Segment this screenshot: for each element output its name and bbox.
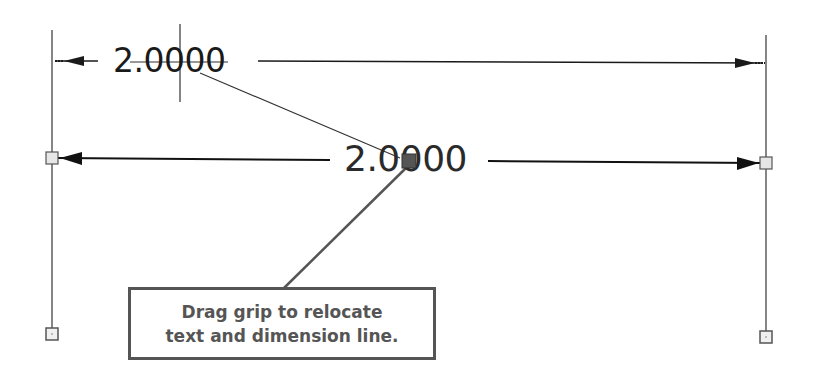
left-extension-origin-grip[interactable] [46, 328, 58, 340]
arrowhead-left-icon [60, 152, 82, 165]
callout-line-1: Drag grip to relocate [182, 300, 383, 324]
callout-line-2: text and dimension line. [165, 324, 398, 348]
arrowhead-right-icon [737, 157, 759, 170]
relocated-dimension-text[interactable]: 2.0000 [344, 141, 467, 177]
callout-box: Drag grip to relocate text and dimension… [128, 287, 436, 360]
original-dimension-text: 2.0000 [113, 44, 225, 77]
arrowhead-left-ghost-icon [55, 56, 84, 66]
right-extension-origin-grip[interactable] [760, 331, 772, 343]
right-dimension-line-grip[interactable] [760, 157, 772, 169]
callout-leader-line [284, 166, 408, 288]
left-dimension-line-grip[interactable] [46, 152, 58, 164]
